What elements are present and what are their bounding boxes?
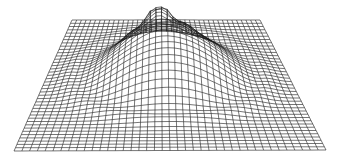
wireframe-surface-plot: [0, 0, 338, 162]
mesh-lines: [14, 7, 326, 151]
mesh-surface: [0, 0, 338, 162]
